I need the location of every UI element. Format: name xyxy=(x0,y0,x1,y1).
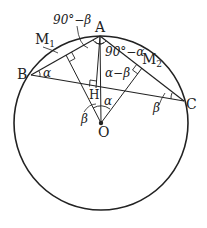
label-M2: M2 xyxy=(142,51,162,69)
label-90-minus-alpha: 90°−α xyxy=(105,45,144,59)
label-alpha-minus-beta: α−β xyxy=(105,66,130,80)
label-A: A xyxy=(94,19,106,35)
label-alpha-B: α xyxy=(43,66,51,80)
label-beta-C: β xyxy=(152,101,160,115)
geometry-diagram: A B C O H M1 M2 90°−β 90°−α α−β α β β α xyxy=(0,0,207,228)
angle-arc-B xyxy=(39,71,40,77)
label-90-minus-beta: 90°−β xyxy=(53,13,91,27)
label-H: H xyxy=(89,88,99,102)
label-M1: M1 xyxy=(35,31,55,49)
label-C: C xyxy=(186,96,197,112)
label-beta-O: β xyxy=(80,112,88,126)
segment-AO xyxy=(100,36,101,123)
label-alpha-O: α xyxy=(104,94,112,108)
angle-arc-C xyxy=(171,93,172,99)
label-O: O xyxy=(98,124,109,140)
label-B: B xyxy=(17,66,27,82)
